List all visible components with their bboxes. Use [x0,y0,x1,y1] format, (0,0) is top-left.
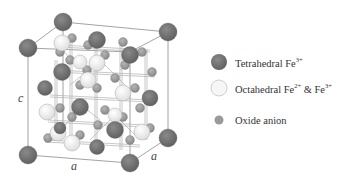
legend-label-tetrahedral: Tetrahedral Fe3+ [235,56,303,69]
legend-item-octahedral: Octahedral Fe2+ & Fe3+ [205,78,332,98]
legend-label-oxide: Oxide anion [235,115,287,126]
legend-item-oxide: Oxide anion [205,110,287,130]
oxide-anion-icon [210,111,228,129]
octahedral-fe-icon [210,79,228,97]
crystal-structure-diagram [0,0,200,182]
axis-label-a-front: a [71,159,77,174]
tetrahedral-fe-icon [210,53,228,71]
axis-label-a-side: a [151,149,157,164]
legend-item-tetrahedral: Tetrahedral Fe3+ [205,52,303,72]
legend-label-octahedral: Octahedral Fe2+ & Fe3+ [235,82,332,95]
axis-label-c: c [18,91,23,106]
